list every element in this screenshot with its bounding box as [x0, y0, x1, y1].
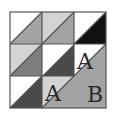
cell-2-2	[42, 44, 74, 76]
label-a-upper: A	[76, 49, 94, 74]
quilt-block-diagram: A A B	[0, 0, 114, 117]
label-b: B	[87, 82, 103, 107]
label-a-lower: A	[44, 81, 62, 106]
